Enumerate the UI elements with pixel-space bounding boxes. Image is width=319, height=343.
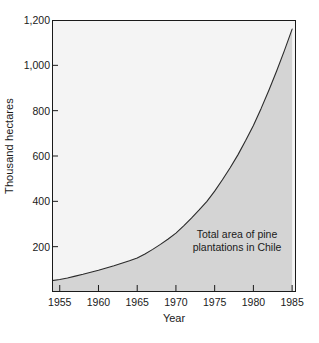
x-axis-tick-labels: 1955196019651970197519801985 [0, 296, 319, 312]
x-axis-title: Year [52, 312, 296, 324]
y-tick-label: 800 [16, 106, 50, 116]
x-tick-label: 1960 [78, 296, 118, 308]
x-tick-label: 1955 [40, 296, 80, 308]
y-tick-label: 1,000 [16, 60, 50, 70]
x-tick-label: 1965 [117, 296, 157, 308]
plot-area [52, 20, 296, 292]
y-tick-label: 400 [16, 196, 50, 206]
x-tick-label: 1975 [195, 296, 235, 308]
y-tick-label: 600 [16, 151, 50, 161]
y-axis-tick-labels: 2004006008001,0001,200 [14, 0, 50, 343]
x-tick-label: 1985 [272, 296, 312, 308]
y-tick-label: 200 [16, 242, 50, 252]
x-tick-label: 1970 [156, 296, 196, 308]
area-chart-svg [52, 20, 296, 292]
chart-figure: Thousand hectares 2004006008001,0001,200… [0, 0, 319, 343]
x-tick-label: 1980 [233, 296, 273, 308]
y-tick-label: 1,200 [16, 15, 50, 25]
